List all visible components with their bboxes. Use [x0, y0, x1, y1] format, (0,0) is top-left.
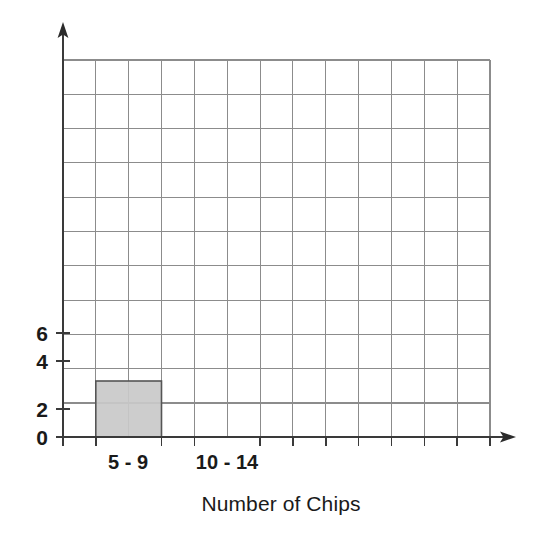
- y-axis-line: [58, 22, 69, 437]
- x-tick-label-10-14: 10 - 14: [196, 452, 258, 472]
- x-axis-ticks: [63, 437, 490, 446]
- x-tick-label-5-9: 5 - 9: [108, 452, 148, 472]
- y-tick-label-6: 6: [20, 323, 48, 344]
- bar-chart: 6 4 2 0 5 - 9 10 - 14 Number of Chips: [0, 0, 548, 550]
- x-axis-title: Number of Chips: [201, 492, 360, 516]
- horizontal-gridlines: [63, 60, 490, 403]
- y-tick-label-0: 0: [20, 427, 48, 448]
- y-tick-label-4: 4: [20, 351, 48, 372]
- y-tick-label-2: 2: [20, 399, 48, 420]
- chart-canvas: [0, 0, 548, 550]
- bar-5-9: [96, 381, 162, 437]
